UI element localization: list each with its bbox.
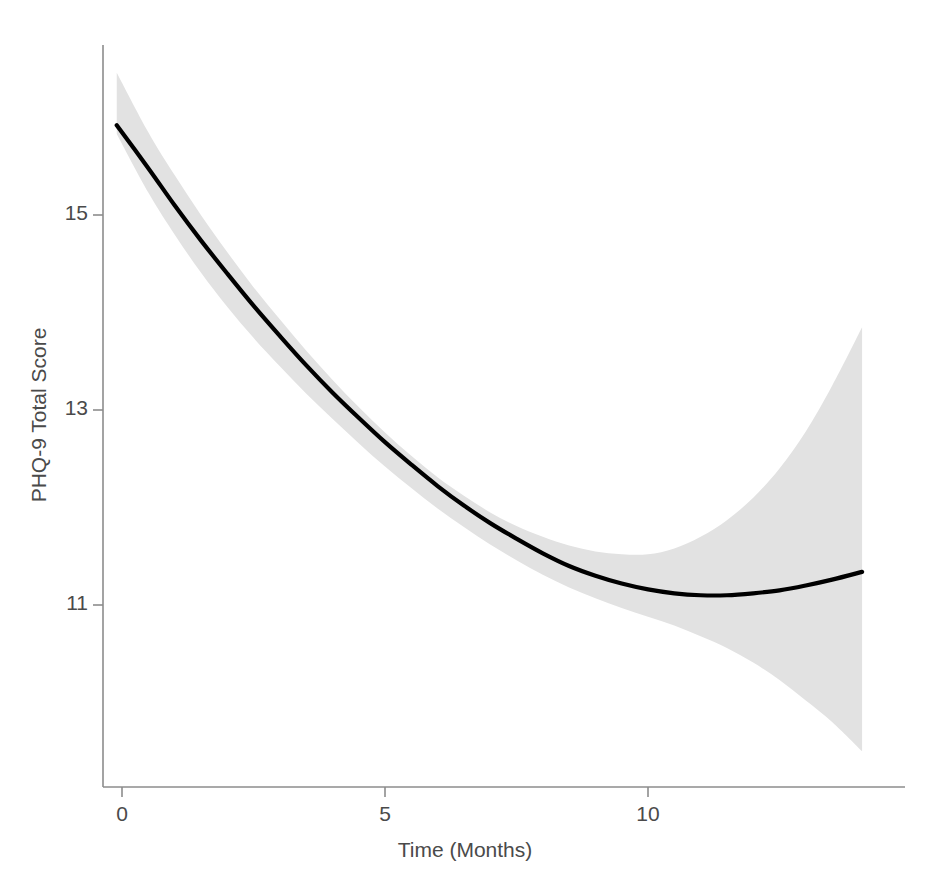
x-tick-label: 5 bbox=[379, 802, 391, 826]
x-tick-label: 0 bbox=[116, 802, 128, 826]
x-tick-label: 10 bbox=[636, 802, 659, 826]
phq9-trajectory-plot: PHQ-9 Total Score Time (Months) bbox=[0, 0, 925, 872]
x-axis-tick-marks bbox=[122, 787, 648, 797]
figure-container: PHQ-9 Total Score Time (Months) 111315 0… bbox=[0, 0, 925, 872]
y-tick-label: 15 bbox=[65, 201, 88, 225]
confidence-interval-band bbox=[117, 73, 862, 752]
y-axis-tick-marks bbox=[93, 215, 103, 605]
y-tick-label: 13 bbox=[65, 396, 88, 420]
y-tick-label: 11 bbox=[66, 591, 88, 615]
x-axis-label: Time (Months) bbox=[398, 838, 533, 861]
y-axis-label: PHQ-9 Total Score bbox=[27, 328, 50, 503]
